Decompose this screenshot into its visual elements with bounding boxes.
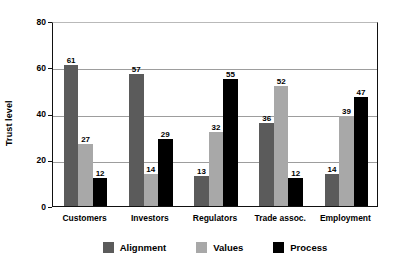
bar bbox=[209, 132, 224, 206]
bar-value-label: 57 bbox=[123, 65, 150, 74]
y-tick-label: 80 bbox=[14, 18, 46, 27]
bar bbox=[288, 178, 303, 206]
plot-area: 612712571429133255365212143947 bbox=[52, 22, 378, 207]
bar bbox=[223, 79, 238, 206]
legend-swatch-icon bbox=[103, 242, 114, 253]
y-tick-label: 0 bbox=[14, 203, 46, 212]
bar bbox=[354, 97, 369, 206]
y-tick-label: 20 bbox=[14, 156, 46, 165]
bar-value-label: 47 bbox=[348, 88, 375, 97]
gridline bbox=[53, 69, 377, 70]
chart-legend: AlignmentValuesProcess bbox=[52, 238, 378, 256]
bar bbox=[158, 139, 173, 206]
bar bbox=[93, 178, 108, 206]
y-tick-label: 60 bbox=[14, 64, 46, 73]
x-axis-label: Employment bbox=[305, 213, 386, 223]
y-tick-mark bbox=[48, 207, 52, 208]
legend-label: Process bbox=[290, 242, 327, 253]
bar bbox=[274, 86, 289, 206]
bar-value-label: 12 bbox=[282, 169, 309, 178]
bar bbox=[339, 116, 354, 206]
legend-label: Alignment bbox=[120, 242, 166, 253]
bar-value-label: 29 bbox=[152, 130, 179, 139]
gridline bbox=[53, 116, 377, 117]
y-axis-title: Trust level bbox=[2, 88, 16, 158]
bar-value-label: 27 bbox=[72, 135, 99, 144]
bar bbox=[129, 74, 144, 206]
bar bbox=[194, 176, 209, 206]
bar bbox=[144, 174, 159, 206]
bar-value-label: 12 bbox=[87, 169, 114, 178]
bar-value-label: 55 bbox=[217, 70, 244, 79]
legend-item: Process bbox=[273, 242, 327, 253]
bar-value-label: 61 bbox=[58, 56, 85, 65]
y-tick-label: 40 bbox=[14, 110, 46, 119]
bar bbox=[325, 174, 340, 206]
bar bbox=[259, 123, 274, 206]
legend-item: Alignment bbox=[103, 242, 166, 253]
legend-item: Values bbox=[196, 242, 243, 253]
bar-value-label: 52 bbox=[268, 77, 295, 86]
legend-swatch-icon bbox=[196, 242, 207, 253]
bar-chart: Trust level 020406080 612712571429133255… bbox=[0, 0, 398, 269]
legend-label: Values bbox=[213, 242, 243, 253]
legend-swatch-icon bbox=[273, 242, 284, 253]
